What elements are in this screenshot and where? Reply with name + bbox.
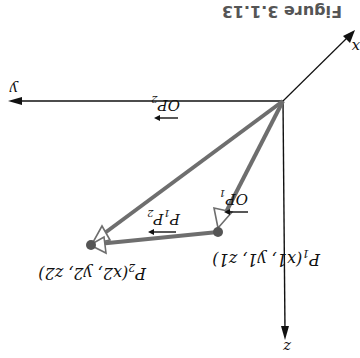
x-axis-label: x <box>351 38 360 56</box>
vector-diagram: Figure 3.1.13 z <box>0 0 360 358</box>
p1-label: P1(x1, y1, z1) <box>212 247 321 269</box>
z-axis-label: z <box>283 338 292 356</box>
svg-text:OP2: OP2 <box>151 94 180 114</box>
figure-caption: Figure 3.1.13 <box>222 2 342 21</box>
svg-text:OP1: OP1 <box>219 188 248 208</box>
p1p2-overarrow-icon <box>148 229 154 235</box>
p2-subscript: 2 <box>128 261 136 274</box>
point-p2 <box>86 240 96 250</box>
p1-name: P <box>309 250 321 269</box>
z-axis <box>283 101 285 332</box>
p1-subscript: 1 <box>302 247 309 260</box>
op2-overarrow-icon <box>154 115 160 121</box>
z-axis-arrow-icon <box>281 326 289 340</box>
y-axis-label: y <box>9 80 19 98</box>
svg-text:P1P2: P1P2 <box>147 208 181 228</box>
p1p2-vector-label: P1P2 <box>147 208 181 235</box>
p2-name: P <box>135 264 147 283</box>
x-axis <box>283 36 349 101</box>
svg-text:P1(x1, y1, z1): P1(x1, y1, z1) <box>212 247 321 269</box>
vectors <box>90 101 283 253</box>
p2-label: P2(x2, y2, z2) <box>38 261 147 283</box>
vector-p1p2 <box>98 232 218 244</box>
p1-coords: (x1, y1, z1) <box>212 250 302 269</box>
op2-vector-label: OP2 <box>151 94 180 121</box>
svg-text:P2(x2, y2, z2): P2(x2, y2, z2) <box>38 261 147 283</box>
point-p1 <box>213 227 223 237</box>
vector-op2 <box>98 101 283 238</box>
axes <box>8 30 355 340</box>
p2-coords: (x2, y2, z2) <box>38 264 128 283</box>
